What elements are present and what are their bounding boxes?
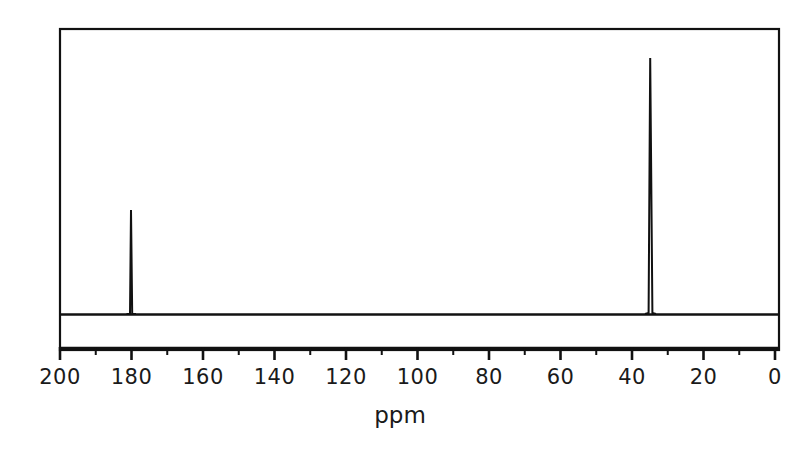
plot-frame [60,29,779,350]
x-axis-title: ppm [374,402,426,428]
nmr-spectrum-figure: 200180160140120100806040200 ppm [0,0,812,450]
x-axis-tick-label: 120 [325,365,367,389]
x-axis-tick-label: 0 [768,365,782,389]
x-axis-tick-label: 20 [690,365,718,389]
x-axis-tick-label: 100 [397,365,439,389]
x-axis-tick-label: 200 [39,365,81,389]
x-axis-ticks [60,347,775,360]
x-axis-tick-label: 80 [475,365,503,389]
x-axis-tick-label: 160 [182,365,224,389]
x-axis-tick-label: 180 [111,365,153,389]
x-axis-tick-label: 40 [618,365,646,389]
spectrum-canvas: 200180160140120100806040200 ppm [0,0,812,450]
x-axis-tick-label: 140 [254,365,296,389]
x-axis-tick-label: 60 [547,365,575,389]
x-axis-tick-labels: 200180160140120100806040200 [39,365,782,389]
